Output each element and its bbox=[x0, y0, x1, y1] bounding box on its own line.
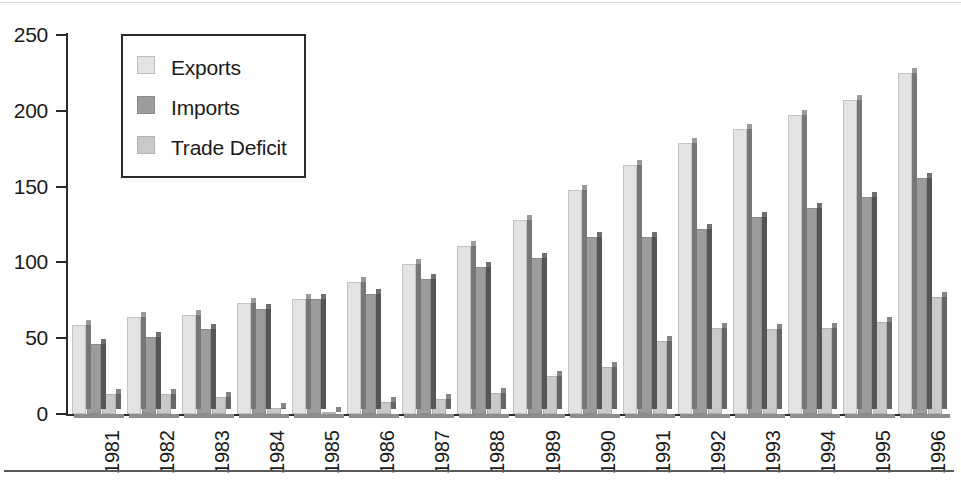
bar-face bbox=[322, 412, 336, 414]
bar-face bbox=[733, 129, 747, 414]
bar-side bbox=[597, 232, 602, 409]
bar-exports-1991 bbox=[623, 165, 637, 414]
x-axis-label-1982: 1982 bbox=[157, 414, 177, 474]
bar-exports-1989 bbox=[513, 220, 527, 414]
bar-cap bbox=[927, 173, 932, 178]
bar-side bbox=[582, 185, 587, 409]
bar-cap bbox=[637, 160, 642, 165]
bar-side bbox=[777, 324, 782, 409]
bar-cap bbox=[912, 68, 917, 73]
bar-group bbox=[843, 0, 893, 414]
bar-side bbox=[527, 215, 532, 409]
x-axis-label-1991: 1991 bbox=[653, 414, 673, 474]
bar-face bbox=[568, 190, 582, 414]
bar-cap bbox=[707, 224, 712, 229]
bar-exports-1983 bbox=[182, 315, 196, 414]
x-axis-label-1996: 1996 bbox=[928, 414, 948, 474]
bar-cap bbox=[141, 312, 146, 317]
bar-cap bbox=[196, 310, 201, 315]
bar-side bbox=[101, 339, 106, 409]
bar-exports-1981 bbox=[72, 325, 86, 414]
bar-cap bbox=[667, 336, 672, 341]
bar-face bbox=[898, 73, 912, 414]
bar-side bbox=[416, 259, 421, 409]
bar-group bbox=[568, 0, 618, 414]
y-tick-200 bbox=[56, 110, 68, 112]
bar-cap bbox=[336, 407, 341, 412]
bar-face bbox=[788, 115, 802, 414]
legend-swatch-face bbox=[137, 56, 155, 74]
bar-exports-1986 bbox=[347, 282, 361, 414]
y-tick-label: 150 bbox=[2, 176, 48, 197]
bar-exports-1994 bbox=[788, 115, 802, 414]
bar-side bbox=[431, 274, 436, 409]
bar-cap bbox=[391, 397, 396, 402]
bar-exports-1984 bbox=[237, 303, 251, 414]
bar-side bbox=[887, 317, 892, 409]
bar-side bbox=[707, 224, 712, 409]
bar-group bbox=[402, 0, 452, 414]
bar-side bbox=[612, 362, 617, 409]
bar-group bbox=[733, 0, 783, 414]
chart-legend: ExportsImportsTrade Deficit bbox=[121, 34, 306, 178]
bar-face bbox=[402, 264, 416, 414]
bar-group bbox=[623, 0, 673, 414]
x-axis-label-1990: 1990 bbox=[598, 414, 618, 474]
scanned-page: 050100150200250 198119821983198419851986… bbox=[0, 0, 961, 487]
bar-side bbox=[542, 253, 547, 409]
bar-exports-1987 bbox=[402, 264, 416, 414]
legend-swatch-face bbox=[137, 136, 155, 154]
x-axis-label-1988: 1988 bbox=[487, 414, 507, 474]
bar-cap bbox=[501, 388, 506, 393]
bar-group bbox=[788, 0, 838, 414]
bar-side bbox=[471, 241, 476, 409]
bar-group bbox=[457, 0, 507, 414]
x-axis-label-1981: 1981 bbox=[102, 414, 122, 474]
bar-cap bbox=[306, 294, 311, 299]
bar-side bbox=[817, 203, 822, 409]
bar-group bbox=[678, 0, 728, 414]
bar-exports-1988 bbox=[457, 246, 471, 414]
bar-side bbox=[141, 312, 146, 409]
bar-cap bbox=[86, 320, 91, 325]
bar-side bbox=[486, 262, 491, 409]
bar-side bbox=[211, 324, 216, 409]
bar-cap bbox=[777, 324, 782, 329]
bar-face bbox=[513, 220, 527, 414]
bar-group bbox=[347, 0, 397, 414]
bar-side bbox=[321, 294, 326, 409]
bar-side bbox=[912, 68, 917, 409]
bar-cap bbox=[471, 241, 476, 246]
bar-side bbox=[692, 138, 697, 409]
x-axis-label-1985: 1985 bbox=[322, 414, 342, 474]
bar-side bbox=[747, 124, 752, 409]
y-tick-label: 200 bbox=[2, 100, 48, 121]
x-axis-label-1992: 1992 bbox=[708, 414, 728, 474]
bar-cap bbox=[872, 192, 877, 197]
y-tick-100 bbox=[56, 261, 68, 263]
bar-exports-1992 bbox=[678, 143, 692, 414]
bar-cap bbox=[431, 274, 436, 279]
bar-side bbox=[376, 289, 381, 409]
legend-label: Trade Deficit bbox=[171, 137, 287, 158]
legend-item-exports: Exports bbox=[137, 50, 241, 84]
bar-side bbox=[306, 294, 311, 409]
y-tick-50 bbox=[56, 337, 68, 339]
bar-cap bbox=[722, 323, 727, 328]
bar-cap bbox=[211, 324, 216, 329]
page-rule-bottom bbox=[4, 470, 954, 472]
bar-side bbox=[722, 323, 727, 409]
x-axis-label-1986: 1986 bbox=[377, 414, 397, 474]
bar-side bbox=[832, 323, 837, 409]
bar-cap bbox=[652, 232, 657, 237]
bar-side bbox=[251, 298, 256, 409]
bar-face bbox=[127, 317, 141, 414]
legend-swatch-face bbox=[137, 96, 155, 114]
y-tick-label: 0 bbox=[2, 403, 48, 424]
bar-cap bbox=[762, 212, 767, 217]
x-axis-label-1989: 1989 bbox=[543, 414, 563, 474]
bar-cap bbox=[251, 298, 256, 303]
bar-exports-1985 bbox=[292, 299, 306, 414]
x-axis-label-1993: 1993 bbox=[763, 414, 783, 474]
x-axis-label-1987: 1987 bbox=[432, 414, 452, 474]
